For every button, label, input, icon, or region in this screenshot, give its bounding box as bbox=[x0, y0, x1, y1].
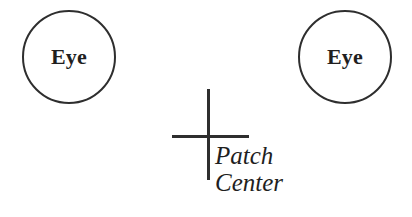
diagram-canvas: Eye Eye Patch Center bbox=[0, 0, 412, 217]
patch-center-caption: Patch Center bbox=[215, 142, 283, 196]
left-eye-label: Eye bbox=[51, 46, 87, 68]
crosshair-horizontal-line bbox=[172, 135, 249, 138]
right-eye-circle: Eye bbox=[298, 10, 392, 104]
patch-center-caption-line-2: Center bbox=[215, 169, 283, 196]
patch-center-caption-line-1: Patch bbox=[215, 142, 283, 169]
right-eye-label: Eye bbox=[327, 46, 363, 68]
left-eye-circle: Eye bbox=[22, 10, 116, 104]
